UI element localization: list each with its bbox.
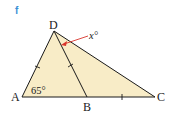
part-label: f: [15, 5, 18, 16]
triangle-diagram: f D A B C 65° x°: [0, 0, 172, 119]
vertex-label-d: D: [49, 18, 58, 32]
vertex-label-a: A: [11, 90, 20, 104]
angle-x-label: x°: [88, 30, 99, 41]
vertex-label-b: B: [83, 100, 91, 114]
vertex-label-c: C: [157, 90, 165, 104]
diagram-canvas: D A B C 65° x°: [0, 0, 172, 119]
angle-a-label: 65°: [31, 85, 46, 96]
